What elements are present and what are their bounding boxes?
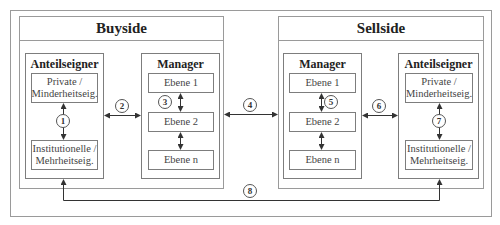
relation-badge-2: 2 [115,99,129,113]
relation-badge-3: 3 [158,95,172,109]
relation-badge-5: 5 [324,95,338,109]
relation-badge-1: 1 [56,114,70,128]
relation-badge-8: 8 [243,184,257,198]
relation-badge-7: 7 [432,114,446,128]
relation-badge-6: 6 [372,99,386,113]
relation-badge-4: 4 [243,98,257,112]
